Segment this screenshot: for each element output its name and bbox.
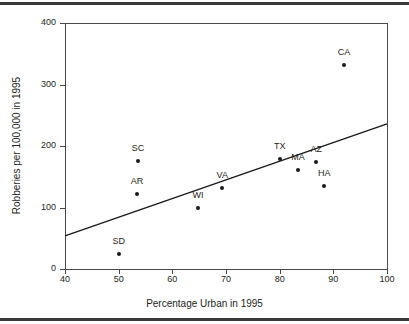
data-point-label: AR xyxy=(131,176,144,186)
x-tick-label: 50 xyxy=(99,274,139,284)
y-axis-title: Robberies per 100,000 in 1995 xyxy=(11,36,22,256)
data-point-label: CA xyxy=(338,47,351,57)
data-point[interactable] xyxy=(136,159,140,163)
data-point[interactable] xyxy=(296,168,300,172)
top-divider-rule xyxy=(0,2,409,5)
y-tick-label: 0 xyxy=(16,263,56,273)
data-point-label: SD xyxy=(112,236,125,246)
data-point-label: VA xyxy=(217,170,228,180)
x-tick-label: 80 xyxy=(260,274,300,284)
plot-area: 0100200300400 405060708090100 SDARSCWIVA… xyxy=(65,23,387,269)
x-tick-label: 100 xyxy=(367,274,407,284)
data-point-label: WI xyxy=(193,190,204,200)
regression-line xyxy=(65,23,388,270)
x-tick-label: 90 xyxy=(313,274,353,284)
x-tick-label: 60 xyxy=(152,274,192,284)
y-tick-label: 200 xyxy=(16,140,56,150)
data-point-label: TX xyxy=(274,141,286,151)
data-point-label: AZ xyxy=(310,144,322,154)
data-point[interactable] xyxy=(342,63,346,67)
data-point-label: MA xyxy=(291,152,305,162)
x-tick-label: 40 xyxy=(45,274,85,284)
data-point[interactable] xyxy=(117,252,121,256)
data-point[interactable] xyxy=(135,192,139,196)
y-tick-label: 400 xyxy=(16,17,56,27)
data-point[interactable] xyxy=(278,157,282,161)
data-point-label: SC xyxy=(132,143,145,153)
scatter-plot-figure: 0100200300400 405060708090100 SDARSCWIVA… xyxy=(0,0,409,324)
y-tick-label: 300 xyxy=(16,79,56,89)
y-tick-label: 100 xyxy=(16,202,56,212)
bottom-divider-rule xyxy=(0,318,409,321)
x-axis-title: Percentage Urban in 1995 xyxy=(0,298,409,309)
data-point-label: HA xyxy=(318,168,331,178)
x-tick-label: 70 xyxy=(206,274,246,284)
